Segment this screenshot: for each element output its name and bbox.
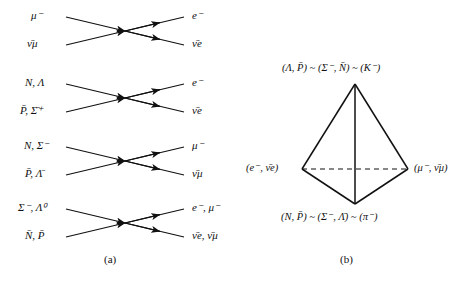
d3-label-bottom-left: P̄, Λ̄ [25, 168, 42, 179]
tetra-label-bottom: (N, P̄) ~ (Σ⁻, Λ̄) ~ (π⁻) [281, 212, 377, 223]
d1-arrow-out-upper [125, 23, 160, 31]
tetra-label-right: (μ⁻, ν̄μ) [414, 163, 447, 174]
figure-canvas [0, 0, 467, 282]
d4-line-upper-a [66, 209, 125, 223]
d3-label-top-left: N, Σ⁻ [24, 140, 49, 151]
d4-arrow-out-upper [125, 215, 160, 223]
tetra-label-left: (e⁻, ν̄e) [246, 163, 278, 174]
d2-arrow-out-upper [125, 90, 160, 98]
d1-label-top-left: μ⁻ [31, 10, 43, 21]
d1-label-bottom-left: ν̄μ [27, 38, 37, 49]
feynman-diagram-4 [66, 209, 184, 237]
d3-line-upper-a [66, 147, 125, 161]
d3-line-lower-a [66, 161, 125, 175]
d2-line-upper-a [66, 84, 125, 98]
d2-label-top-right: e⁻ [192, 77, 203, 88]
d1-line-upper-a [66, 17, 125, 31]
d4-arrow-out-lower [125, 223, 160, 231]
caption-a: (a) [104, 253, 116, 265]
d2-label-top-left: N, Λ [25, 77, 44, 88]
feynman-diagram-3 [66, 147, 184, 175]
d4-label-top-right: e⁻, μ⁻ [192, 202, 220, 213]
feynman-diagram-1 [66, 17, 184, 45]
d4-label-bottom-right: ν̄e, ν̄μ [192, 230, 218, 241]
d1-label-bottom-right: ν̄e [192, 38, 202, 49]
d2-label-bottom-right: ν̄e [192, 105, 202, 116]
d3-arrow-out-upper [125, 153, 160, 161]
d4-line-lower-a [66, 223, 125, 237]
d4-label-bottom-left: N̄, P̄ [25, 230, 45, 241]
tetra-label-top: (Λ, P̄) ~ (Σ⁻, N̄) ~ (K⁻) [282, 63, 380, 74]
tetra-edge-right-bottom [355, 169, 408, 204]
tetra-edge-apex-right [355, 84, 408, 169]
d1-label-top-right: e⁻ [192, 10, 203, 21]
d3-arrow-out-lower [125, 161, 160, 169]
feynman-diagram-2 [66, 84, 184, 112]
d4-label-top-left: Σ⁻, Λ⁰ [18, 202, 46, 213]
d3-label-top-right: μ⁻ [192, 140, 204, 151]
tetra-edge-left-bottom [302, 169, 355, 204]
tetrahedron [302, 84, 408, 204]
tetra-edge-apex-left [302, 84, 355, 169]
d1-arrow-out-lower [125, 31, 160, 39]
d2-line-lower-a [66, 98, 125, 112]
caption-b: (b) [340, 253, 353, 265]
d3-label-bottom-right: ν̄μ [192, 168, 202, 179]
d2-label-bottom-left: P̄, Σ̄⁺ [20, 105, 43, 116]
d1-line-lower-a [66, 31, 125, 45]
d2-arrow-out-lower [125, 98, 160, 106]
